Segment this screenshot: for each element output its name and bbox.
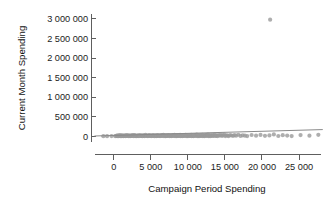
x-axis-title: Campaign Period Spending	[148, 183, 265, 194]
y-tick-label: 3 000 000	[47, 14, 88, 24]
x-axis-ticks	[114, 155, 299, 160]
x-tick-label: 10 000	[174, 162, 202, 172]
x-tick-label: 0	[111, 162, 116, 172]
scatter-points-layer	[101, 18, 320, 139]
data-point	[245, 134, 249, 138]
data-point	[267, 133, 271, 137]
data-point	[307, 134, 311, 138]
data-point	[285, 133, 289, 137]
data-point	[250, 133, 254, 137]
data-point	[272, 132, 276, 136]
chart-figure: 0500 0001 000 0001 500 0002 000 0002 500…	[0, 0, 327, 206]
data-point	[276, 134, 280, 138]
y-tick-label: 1 000 000	[47, 92, 88, 102]
data-point	[316, 133, 320, 137]
data-point	[281, 133, 285, 137]
data-point	[105, 134, 109, 138]
data-point	[254, 134, 258, 138]
x-tick-label: 5 000	[139, 162, 162, 172]
y-tick-label: 2 000 000	[47, 53, 88, 63]
data-point	[258, 133, 262, 137]
y-axis-ticks	[92, 19, 96, 136]
data-point	[298, 133, 302, 137]
y-tick-label: 0	[83, 132, 88, 142]
y-tick-label: 1 500 000	[47, 73, 88, 83]
data-point	[109, 134, 113, 138]
x-axis-tick-labels: 05 00010 00015 00020 00025 000	[111, 162, 313, 172]
x-tick-label: 25 000	[285, 162, 313, 172]
y-axis-title: Current Month Spending	[16, 26, 27, 131]
y-tick-label: 2 500 000	[47, 34, 88, 44]
y-axis-tick-labels: 0500 0001 000 0001 500 0002 000 0002 500…	[47, 14, 88, 141]
data-point	[263, 134, 267, 138]
x-tick-label: 15 000	[211, 162, 239, 172]
data-point	[290, 134, 294, 138]
scatter-plot-canvas: 0500 0001 000 0001 500 0002 000 0002 500…	[0, 0, 327, 206]
x-tick-label: 20 000	[248, 162, 276, 172]
y-tick-label: 500 000	[55, 112, 88, 122]
data-point	[268, 18, 272, 22]
